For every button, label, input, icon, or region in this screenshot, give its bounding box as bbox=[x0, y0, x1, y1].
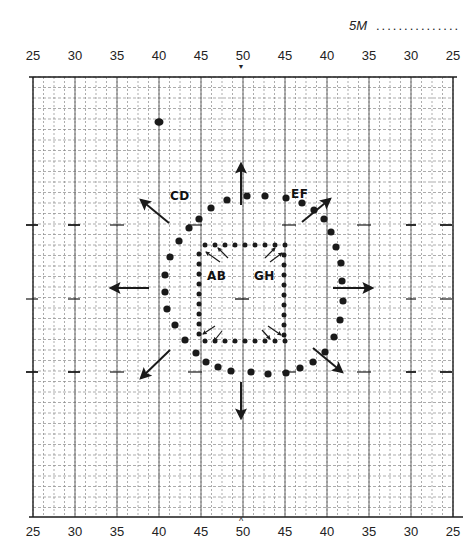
top-axis-tick-label: 25 bbox=[26, 48, 40, 63]
inner-dot bbox=[263, 339, 268, 344]
bottom-axis-tick-label: 25 bbox=[26, 524, 40, 539]
bottom-axis-tick-label: 40 bbox=[320, 524, 334, 539]
inner-dot bbox=[197, 332, 202, 337]
bottom-axis-tick-label: 35 bbox=[110, 524, 124, 539]
outer-dot bbox=[161, 288, 168, 295]
scale-label: 5M bbox=[349, 18, 367, 33]
outer-dot bbox=[166, 253, 173, 260]
bottom-axis-tick-label: 30 bbox=[68, 524, 82, 539]
inner-dot bbox=[233, 243, 238, 248]
inner-dot bbox=[197, 312, 202, 317]
ink-blob-mark bbox=[155, 118, 164, 126]
inner-dot bbox=[197, 282, 202, 287]
outer-dot bbox=[282, 194, 289, 201]
top-axis-tick-label: 35 bbox=[362, 48, 376, 63]
inner-dot bbox=[233, 339, 238, 344]
inner-arrow-nw-icon bbox=[218, 248, 228, 258]
bottom-axis-tick-label: 45 bbox=[278, 524, 292, 539]
outer-dot bbox=[320, 215, 327, 222]
bottom-axis-tick-label: 40 bbox=[152, 524, 166, 539]
inner-dot bbox=[283, 339, 288, 344]
inner-dot bbox=[282, 263, 287, 268]
arrow-nw-icon bbox=[141, 200, 169, 223]
inner-arrow-ne-icon bbox=[270, 253, 282, 262]
ink-blob bbox=[155, 118, 164, 126]
outer-dot bbox=[337, 259, 344, 266]
inner-dot bbox=[197, 302, 202, 307]
outer-dot bbox=[207, 204, 214, 211]
inner-corner-arrows bbox=[203, 248, 282, 341]
inner-dot bbox=[197, 322, 202, 327]
inner-dot bbox=[243, 243, 248, 248]
top-axis-tick-label: 35 bbox=[110, 48, 124, 63]
outer-dot bbox=[161, 271, 168, 278]
top-axis-tick-label: 40 bbox=[152, 48, 166, 63]
inner-dot bbox=[282, 333, 287, 338]
inner-dot bbox=[282, 303, 287, 308]
bottom-axis-tick-label: 35 bbox=[362, 524, 376, 539]
outer-dot bbox=[332, 243, 339, 250]
top-axis-tick-label: 45 bbox=[278, 48, 292, 63]
bottom-axis-tick-label: 30 bbox=[404, 524, 418, 539]
bottom-axis-tick-label: 45 bbox=[194, 524, 208, 539]
inner-dot bbox=[253, 243, 258, 248]
inner-dot bbox=[282, 313, 287, 318]
outer-dot bbox=[223, 196, 230, 203]
outer-dot bbox=[339, 297, 346, 304]
outer-dot bbox=[214, 363, 221, 370]
inner-dot bbox=[203, 339, 208, 344]
inner-dot bbox=[282, 273, 287, 278]
outer-dot bbox=[181, 336, 188, 343]
top-axis-tick-label: 30 bbox=[68, 48, 82, 63]
bottom-axis-tick-label: 50 bbox=[236, 524, 250, 539]
inner-dot bbox=[243, 339, 248, 344]
outer-dot bbox=[192, 349, 199, 356]
outer-dot bbox=[247, 368, 254, 375]
inner-dot bbox=[263, 243, 268, 248]
inner-arrow-se-icon bbox=[262, 330, 270, 339]
outer-dot bbox=[296, 364, 303, 371]
inner-dot bbox=[253, 339, 258, 344]
graph-paper-diagram bbox=[0, 0, 473, 556]
outer-dot bbox=[175, 237, 182, 244]
top-axis-tick-label: 50 bbox=[236, 48, 250, 63]
top-axis-tick-label: 40 bbox=[320, 48, 334, 63]
bottom-center-marker: ^ bbox=[239, 516, 243, 526]
outer-dot bbox=[330, 333, 337, 340]
outer-dot bbox=[309, 358, 316, 365]
top-axis-tick-label: 25 bbox=[446, 48, 460, 63]
bottom-axis-tick-label: 25 bbox=[446, 524, 460, 539]
label-ef: EF bbox=[291, 187, 308, 201]
outward-arrows bbox=[111, 164, 372, 418]
label-ab: AB bbox=[207, 269, 226, 283]
inner-arrow-sw-icon bbox=[203, 326, 215, 334]
inner-dot bbox=[283, 243, 288, 248]
outer-dot bbox=[195, 215, 202, 222]
inner-arrow-ne-icon bbox=[265, 248, 275, 258]
outer-dot bbox=[282, 369, 289, 376]
inner-dot-square bbox=[197, 243, 288, 344]
outer-dot bbox=[338, 277, 345, 284]
inner-dot bbox=[223, 339, 228, 344]
inner-dot bbox=[197, 272, 202, 277]
outer-dot bbox=[336, 316, 343, 323]
inner-dot bbox=[197, 292, 202, 297]
scale-dotted-line: ............... bbox=[376, 18, 460, 33]
outer-dot bbox=[261, 192, 268, 199]
label-gh: GH bbox=[254, 269, 275, 283]
inner-arrow-nw-icon bbox=[206, 252, 220, 262]
outer-dot bbox=[321, 348, 328, 355]
outer-dot bbox=[202, 358, 209, 365]
outer-dot bbox=[185, 224, 192, 231]
inner-dot bbox=[282, 253, 287, 258]
inner-dot bbox=[282, 293, 287, 298]
label-cd: CD bbox=[170, 189, 190, 203]
inner-dot bbox=[282, 323, 287, 328]
top-axis-tick-label: 45 bbox=[194, 48, 208, 63]
inner-dot bbox=[223, 243, 228, 248]
outer-dot bbox=[243, 192, 250, 199]
outer-dot bbox=[227, 367, 234, 374]
inner-dot bbox=[213, 243, 218, 248]
arrow-sw-icon bbox=[141, 350, 170, 378]
inner-dot bbox=[282, 283, 287, 288]
